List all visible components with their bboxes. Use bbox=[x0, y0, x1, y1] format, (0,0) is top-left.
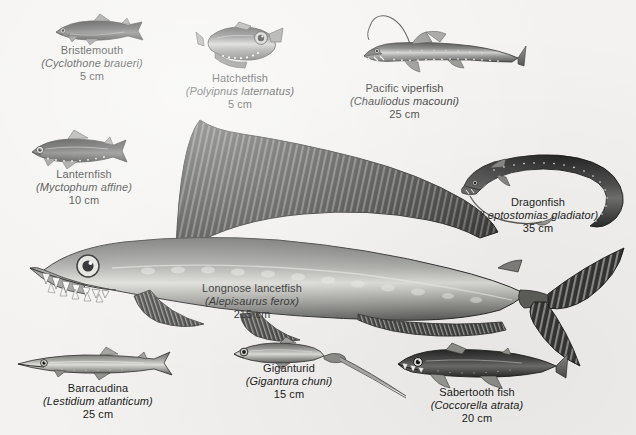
size-label: 5 cm bbox=[22, 70, 162, 83]
caption-bristlemouth: Bristlemouth (Cyclothone braueri) 5 cm bbox=[22, 44, 162, 84]
scientific-name: (Lestidium atlanticum) bbox=[18, 395, 178, 408]
common-name: Barracudina bbox=[18, 382, 178, 395]
caption-hatchetfish: Hatchetfish (Polyipnus laternatus) 5 cm bbox=[165, 72, 315, 112]
longnose-lancetfish-illustration bbox=[28, 108, 628, 368]
caption-giganturid: Giganturid (Gigantura chuni) 15 cm bbox=[214, 362, 364, 402]
scientific-name: (Polyipnus laternatus) bbox=[165, 85, 315, 98]
scientific-name: (Cyclothone braueri) bbox=[22, 57, 162, 70]
common-name: Longnose lancetfish bbox=[172, 282, 332, 295]
size-label: 25 cm bbox=[18, 408, 178, 421]
size-label: 15 cm bbox=[214, 388, 364, 401]
barracudina-illustration bbox=[14, 344, 182, 384]
common-name: Giganturid bbox=[214, 362, 364, 375]
bristlemouth-illustration bbox=[50, 12, 150, 48]
hatchetfish-illustration bbox=[195, 22, 285, 74]
scientific-name: (Alepisaurus ferox) bbox=[172, 295, 332, 308]
caption-sabertooth-fish: Sabertooth fish (Coccorella atrata) 20 c… bbox=[392, 386, 562, 426]
common-name: Sabertooth fish bbox=[392, 386, 562, 399]
common-name: Hatchetfish bbox=[165, 72, 315, 85]
caption-barracudina: Barracudina (Lestidium atlanticum) 25 cm bbox=[18, 382, 178, 422]
common-name: Bristlemouth bbox=[22, 44, 162, 57]
illustration-plate: Bristlemouth (Cyclothone braueri) 5 cm H… bbox=[0, 0, 636, 435]
scientific-name: (Chauliodus macouni) bbox=[322, 95, 487, 108]
scientific-name: (Gigantura chuni) bbox=[214, 375, 364, 388]
size-label: 20 cm bbox=[392, 412, 562, 425]
scientific-name: (Coccorella atrata) bbox=[392, 399, 562, 412]
caption-longnose-lancetfish: Longnose lancetfish (Alepisaurus ferox) … bbox=[172, 282, 332, 322]
pacific-viperfish-illustration bbox=[352, 14, 527, 86]
size-label: 215 cm bbox=[172, 308, 332, 321]
common-name: Pacific viperfish bbox=[322, 82, 487, 95]
